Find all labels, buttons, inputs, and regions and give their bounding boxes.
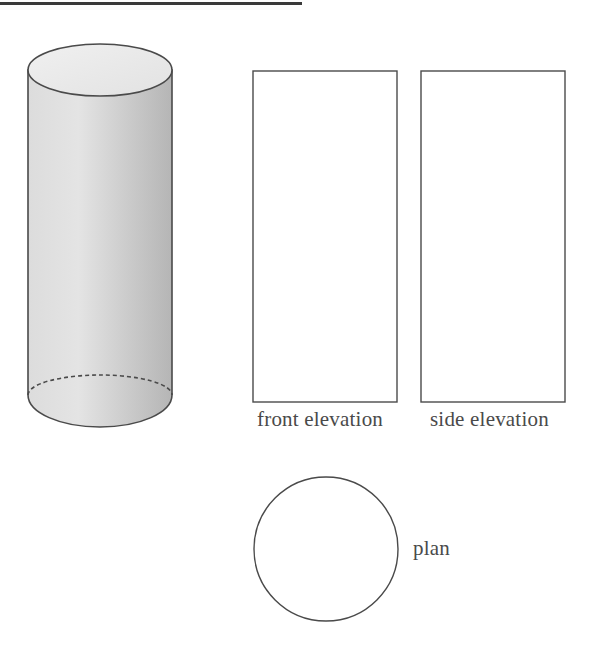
plan-label: plan — [413, 536, 450, 561]
cylinder-body — [28, 70, 172, 427]
projection-figure — [0, 0, 593, 647]
side-elevation-rectangle — [421, 71, 565, 402]
cylinder-3d — [28, 44, 172, 427]
side-elevation-label: side elevation — [430, 407, 549, 432]
front-elevation-rectangle — [253, 71, 397, 402]
cylinder-top-face — [28, 44, 172, 96]
plan-circle — [254, 477, 398, 621]
front-elevation-label: front elevation — [257, 407, 383, 432]
